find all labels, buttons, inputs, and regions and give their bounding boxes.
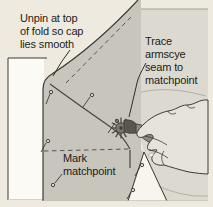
trace-callout-line: Trace [145,35,197,48]
unpin-callout-line: lies smooth [20,38,83,51]
mark-callout-line: matchpoint [63,165,115,178]
trace-callout-line: matchpoint [145,74,197,87]
unpin-callout: Unpin at top of fold so cap lies smooth [20,12,83,51]
illustration: Unpin at top of fold so cap lies smooth … [0,0,213,207]
unpin-callout-line: Unpin at top [20,12,83,25]
trace-callout-line: armscye [145,48,197,61]
pattern-paper [8,58,47,200]
trace-callout-line: seam to [145,61,197,74]
trace-callout: Trace armscye seam to matchpoint [145,35,197,87]
mark-callout: Mark matchpoint [63,152,115,178]
mark-callout-line: Mark [63,152,115,165]
unpin-callout-line: of fold so cap [20,25,83,38]
